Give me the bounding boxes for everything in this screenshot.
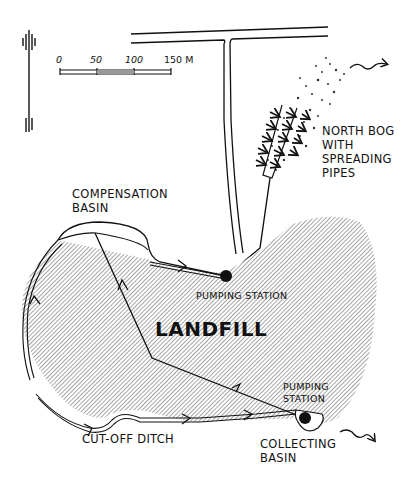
- site-map: [0, 0, 412, 490]
- scale-bar: [60, 68, 171, 75]
- scale-tick-100: 100: [125, 54, 143, 65]
- cut-off-ditch-label: CUT-OFF DITCH: [82, 432, 174, 446]
- pumping-station-bottom-label: PUMPING STATION: [283, 381, 329, 405]
- north-bog-label: NORTH BOG WITH SPREADING PIPES: [322, 124, 395, 180]
- north-arrow-icon: [23, 30, 35, 132]
- pumping-station-bottom-marker: [299, 412, 311, 424]
- compensation-basin-label: COMPENSATION BASIN: [72, 187, 168, 215]
- scale-tick-0: 0: [56, 54, 62, 65]
- scale-tick-150: 150 M: [164, 54, 193, 65]
- scale-tick-50: 50: [90, 54, 102, 65]
- landfill-label: LANDFILL: [155, 322, 267, 336]
- collecting-basin-label: COLLECTING BASIN: [260, 437, 336, 465]
- outflow-arrow-south: [340, 430, 374, 440]
- outflow-arrow-north: [350, 63, 386, 69]
- pumping-station-top-marker: [220, 270, 232, 282]
- pumping-station-top-label: PUMPING STATION: [196, 290, 287, 302]
